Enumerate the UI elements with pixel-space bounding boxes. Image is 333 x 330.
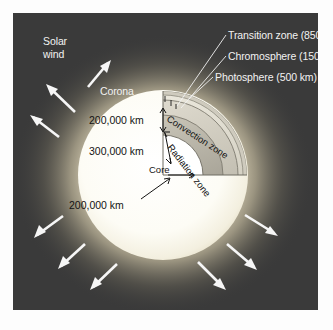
chromosphere-label: Chromosphere (1500 km)	[228, 50, 318, 62]
core-depth-label: 200,000 km	[69, 199, 124, 211]
figure-root: Solar wind Corona Transition zone (8500 …	[0, 0, 333, 330]
radiation-depth-label: 300,000 km	[89, 145, 144, 157]
solar-wind-label-line2: wind	[43, 48, 64, 60]
core-label: Core	[149, 164, 170, 175]
transition-zone-label: Transition zone (8500 km)	[228, 29, 318, 41]
convection-depth-label: 200,000 km	[89, 114, 144, 126]
diagram-panel: Solar wind Corona Transition zone (8500 …	[13, 13, 318, 310]
solar-wind-label-line1: Solar	[43, 35, 67, 47]
corona-label: Corona	[100, 85, 134, 97]
photosphere-label: Photosphere (500 km)	[215, 71, 317, 83]
